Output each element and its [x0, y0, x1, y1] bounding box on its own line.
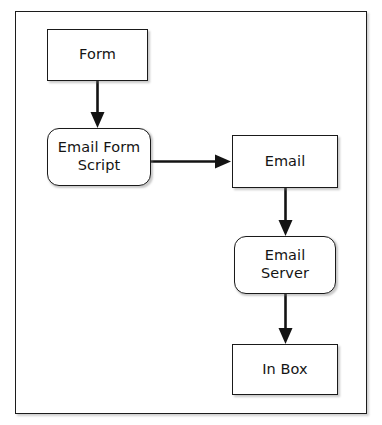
- node-email-server[interactable]: Email Server: [234, 236, 336, 294]
- node-email-label: Email: [261, 153, 310, 171]
- node-email[interactable]: Email: [232, 135, 338, 188]
- node-in-box[interactable]: In Box: [232, 344, 338, 395]
- node-email-form-script[interactable]: Email Form Script: [47, 128, 151, 186]
- node-form[interactable]: Form: [47, 29, 148, 81]
- diagram-canvas: Form Email Form Script Email Email Serve…: [0, 0, 382, 425]
- node-in-box-label: In Box: [258, 361, 312, 379]
- node-email-server-label: Email Server: [257, 247, 313, 282]
- node-email-form-script-label: Email Form Script: [54, 139, 144, 174]
- node-form-label: Form: [75, 46, 120, 64]
